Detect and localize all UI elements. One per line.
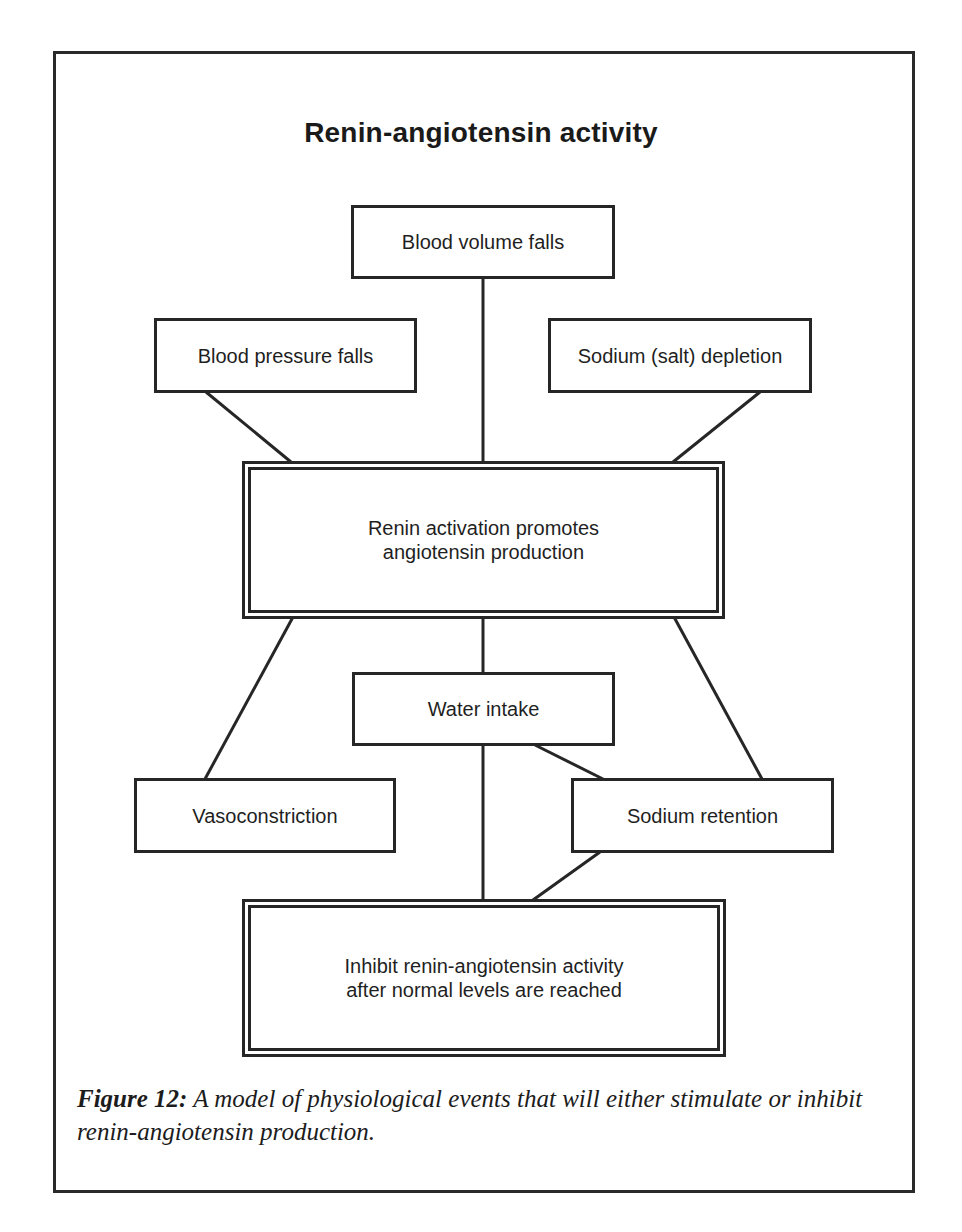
node-inhibit-renin: Inhibit renin-angiotensin activity after… [242, 899, 726, 1057]
node-label: Blood pressure falls [198, 344, 374, 368]
node-water-intake: Water intake [352, 672, 615, 746]
node-label-line-2: angiotensin production [383, 540, 584, 564]
edge-sodium-depletion-to-renin [673, 392, 760, 462]
node-blood-volume-falls: Blood volume falls [351, 205, 615, 279]
node-label: Vasoconstriction [192, 804, 337, 828]
node-label: Blood volume falls [402, 230, 564, 254]
node-label: Water intake [428, 697, 540, 721]
edge-sodium-retention-to-inhibit [533, 852, 600, 900]
edge-renin-to-sodium-retention [674, 617, 762, 779]
node-inner-border: Renin activation promotes angiotensin pr… [248, 467, 719, 613]
node-label: Sodium (salt) depletion [578, 344, 783, 368]
node-label-line-1: Inhibit renin-angiotensin activity [344, 954, 623, 978]
node-renin-activation: Renin activation promotes angiotensin pr… [242, 461, 725, 619]
node-inner-border: Inhibit renin-angiotensin activity after… [248, 905, 720, 1051]
node-blood-pressure-falls: Blood pressure falls [154, 318, 417, 393]
edge-blood-pressure-to-renin [206, 392, 291, 462]
node-vasoconstriction: Vasoconstriction [134, 778, 396, 853]
node-label-line-2: after normal levels are reached [346, 978, 622, 1002]
edge-water-intake-to-sodium-retention [535, 745, 603, 779]
figure-label: Figure 12: [77, 1085, 187, 1112]
node-sodium-depletion: Sodium (salt) depletion [548, 318, 812, 393]
node-sodium-retention: Sodium retention [571, 778, 834, 853]
node-label-line-1: Renin activation promotes [368, 516, 599, 540]
figure-caption: Figure 12: A model of physiological even… [77, 1082, 897, 1148]
caption-text: A model of physiological events that wil… [77, 1085, 862, 1145]
node-label: Sodium retention [627, 804, 778, 828]
edge-renin-to-vasoconstriction [205, 617, 293, 779]
